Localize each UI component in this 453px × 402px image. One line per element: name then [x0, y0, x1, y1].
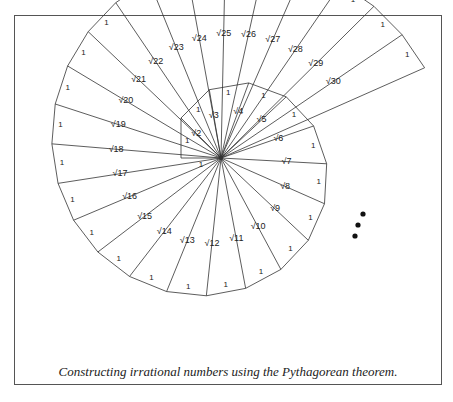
unit-leg-line [98, 252, 130, 276]
hypotenuse-label: √29 [308, 58, 323, 68]
unit-leg-line [74, 220, 98, 252]
hypotenuse-label: √27 [265, 34, 280, 44]
hypotenuse-label: √25 [216, 28, 231, 38]
unit-leg-line [374, 6, 402, 34]
radius-line [149, 0, 221, 158]
figure-caption: Constructing irrational numbers using th… [14, 364, 442, 380]
radius-line [221, 158, 327, 164]
unit-leg-line [130, 276, 167, 291]
unit-leg-line [281, 240, 308, 269]
unit-leg-line [246, 269, 281, 288]
radius-line [221, 126, 314, 158]
leg-label: 1 [292, 110, 297, 119]
continuation-dot [360, 211, 365, 216]
unit-leg-line [314, 126, 327, 164]
center-point [219, 156, 223, 160]
unit-leg-line [52, 104, 55, 144]
unit-leg-line [167, 292, 207, 296]
leg-label: 1 [405, 50, 410, 59]
hypotenuse-label: √10 [251, 221, 266, 231]
leg-label: 1 [226, 88, 231, 97]
hypotenuse-label: √11 [229, 233, 243, 243]
hypotenuse-label: √4 [233, 106, 243, 116]
hypotenuse-label: √28 [288, 44, 303, 54]
hypotenuse-label: √18 [109, 144, 124, 154]
radius-line [167, 158, 221, 292]
hypotenuse-label: √19 [111, 119, 126, 129]
hypotenuse-label: √21 [131, 74, 146, 84]
hypotenuse-label: √26 [241, 29, 256, 39]
hypotenuse-label: √8 [280, 181, 290, 191]
unit-leg-line [341, 0, 374, 6]
radius-line [206, 158, 221, 296]
leg-label: 1 [380, 20, 385, 29]
leg-label: 1 [58, 120, 63, 129]
leg-label: 1 [351, 0, 356, 4]
leg-label: 1 [70, 195, 75, 204]
leg-label: 1 [224, 280, 229, 289]
unit-leg-line [116, 0, 149, 3]
leg-label: 1 [199, 160, 204, 169]
hypotenuse-label: √5 [256, 114, 266, 124]
unit-leg-line [206, 288, 245, 295]
leg-label: 1 [185, 136, 190, 145]
leg-label: 1 [133, 0, 138, 2]
leg-label: 1 [60, 158, 65, 167]
unit-leg-line [52, 144, 58, 184]
leg-label: 1 [90, 228, 95, 237]
hypotenuse-label: √13 [180, 235, 195, 245]
hypotenuse-label: √30 [326, 76, 341, 86]
leg-label: 1 [186, 282, 191, 291]
hypotenuse-label: √17 [112, 168, 127, 178]
radius-line [221, 0, 225, 158]
hypotenuse-label: √14 [157, 226, 172, 236]
spiral-of-theodorus: 1√21√31√41√51√61√71√81√91√101√111√121√13… [0, 0, 453, 402]
leg-label: 1 [149, 273, 154, 282]
hypotenuse-label: √23 [169, 42, 184, 52]
continuation-dot [352, 233, 357, 238]
hypotenuse-label: √12 [204, 238, 219, 248]
hypotenuse-label: √16 [122, 191, 137, 201]
leg-label: 1 [104, 18, 109, 27]
radius-line [221, 158, 281, 269]
leg-label: 1 [288, 244, 293, 253]
hypotenuse-label: √2 [191, 128, 201, 138]
radius-line [58, 158, 221, 183]
hypotenuse-label: √9 [270, 203, 280, 213]
hypotenuse-label: √20 [118, 95, 133, 105]
unit-leg-line [286, 97, 313, 126]
unit-leg-line [88, 3, 116, 32]
continuation-dot [355, 222, 360, 227]
radius-line [221, 158, 324, 204]
leg-label: 1 [196, 105, 201, 114]
leg-label: 1 [116, 254, 121, 263]
leg-label: 1 [308, 213, 313, 222]
hypotenuse-label: √7 [282, 156, 292, 166]
leg-label: 1 [317, 177, 322, 186]
radius-line [221, 0, 304, 158]
unit-leg-line [324, 164, 326, 204]
hypotenuse-label: √15 [137, 211, 152, 221]
radius-line [52, 144, 221, 158]
hypotenuse-label: √22 [148, 56, 163, 66]
leg-label: 1 [311, 141, 316, 150]
hypotenuse-label: √3 [209, 110, 219, 120]
leg-label: 1 [261, 91, 266, 100]
hypotenuse-label: √6 [273, 133, 283, 143]
radius-line [221, 0, 265, 158]
leg-label: 1 [81, 48, 86, 57]
leg-label: 1 [66, 83, 71, 92]
hypotenuse-label: √24 [192, 33, 207, 43]
leg-label: 1 [259, 267, 264, 276]
radius-line [221, 68, 425, 158]
